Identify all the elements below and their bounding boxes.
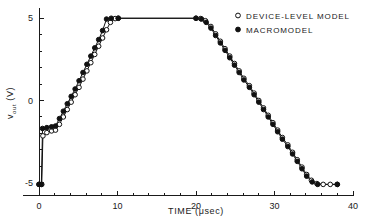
series-line-device-level-model (39, 18, 337, 184)
data-point-marker (252, 92, 257, 97)
x-tick-label: 0 (36, 201, 41, 211)
data-point-marker (242, 78, 247, 83)
data-point-marker (223, 48, 228, 53)
data-point-marker (213, 33, 218, 38)
data-point-marker (304, 174, 309, 179)
y-tick-label: -5 (25, 178, 33, 188)
data-point-marker (100, 28, 105, 33)
legend-marker-filled-circle-icon (236, 27, 241, 32)
data-point-marker (218, 41, 223, 46)
data-point-marker (335, 182, 340, 187)
data-point-marker (73, 87, 78, 92)
chart-figure: 010203040 -505 TIME (μsec) vout (V) DEVI… (0, 0, 367, 224)
data-point-marker (45, 125, 50, 130)
data-point-marker (53, 124, 58, 129)
data-point-marker (227, 55, 232, 60)
data-point-marker (85, 62, 90, 67)
data-point-marker (275, 129, 280, 134)
chart-legend: DEVICE-LEVEL MODEL MACROMODEL (236, 12, 350, 35)
data-point-marker (286, 144, 291, 149)
data-point-marker (109, 16, 114, 21)
y-tick-label: 5 (28, 13, 33, 23)
data-point-marker (92, 46, 97, 51)
plot-svg: 010203040 -505 TIME (μsec) vout (V) DEVI… (0, 0, 367, 224)
series-markers (37, 16, 340, 187)
series-lines (39, 18, 337, 184)
x-tick-label: 40 (348, 201, 358, 211)
data-point-marker (116, 16, 121, 21)
x-tick-label: 30 (269, 201, 279, 211)
data-point-marker (40, 126, 45, 131)
data-point-marker (321, 182, 326, 187)
y-axis-title-unit: (V) (5, 87, 15, 104)
data-point-marker (300, 166, 305, 171)
legend-label-device-level-model: DEVICE-LEVEL MODEL (246, 12, 350, 21)
y-axis-tick-labels: -505 (25, 13, 33, 188)
data-point-marker (290, 152, 295, 157)
data-point-marker (328, 182, 333, 187)
legend-marker-open-circle-icon (236, 13, 241, 18)
data-point-marker (81, 70, 86, 75)
data-point-marker (266, 115, 271, 120)
data-point-marker (89, 54, 94, 59)
data-point-marker (65, 101, 70, 106)
data-point-marker (271, 122, 276, 127)
data-point-marker (209, 26, 214, 31)
data-point-marker (315, 182, 320, 187)
data-point-marker (77, 78, 82, 83)
x-tick-label: 10 (112, 201, 122, 211)
data-point-marker (69, 94, 74, 99)
data-point-marker (41, 134, 46, 139)
x-axis-title: TIME (μsec) (168, 206, 224, 216)
data-point-marker (39, 182, 44, 187)
data-point-marker (96, 37, 101, 42)
data-point-marker (57, 116, 62, 121)
y-tick-label: 0 (28, 96, 33, 106)
data-point-marker (261, 107, 266, 112)
y-axis-title-subscript: out (11, 104, 17, 114)
data-point-marker (280, 137, 285, 142)
legend-label-macromodel: MACROMODEL (246, 26, 313, 35)
data-point-marker (45, 130, 50, 135)
data-point-marker (204, 20, 209, 25)
data-point-marker (257, 100, 262, 105)
series-line-macromodel (39, 18, 337, 184)
data-point-marker (247, 85, 252, 90)
data-point-marker (295, 159, 300, 164)
data-point-marker (232, 63, 237, 68)
data-point-marker (199, 17, 204, 22)
data-point-marker (104, 17, 109, 22)
y-axis-title: vout (V) (5, 87, 17, 119)
data-point-marker (61, 109, 66, 114)
data-point-marker (310, 180, 315, 185)
data-point-marker (194, 16, 199, 21)
data-point-marker (237, 70, 242, 75)
svg-text:vout (V): vout (V) (5, 87, 17, 119)
